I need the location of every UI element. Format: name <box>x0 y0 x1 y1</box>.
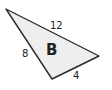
side-label-top: 12 <box>50 20 63 31</box>
side-label-left: 8 <box>22 48 28 59</box>
triangle-diagram: 12 8 4 B <box>0 0 112 90</box>
side-label-bottom: 4 <box>73 70 79 81</box>
triangle-name-label: B <box>46 41 57 59</box>
